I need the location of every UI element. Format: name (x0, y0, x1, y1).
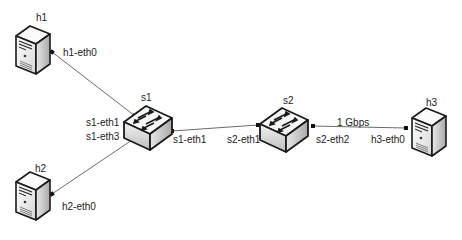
port-label-s2-eth2: s2-eth2 (316, 134, 349, 145)
port-label-s2-eth1: s2-eth1 (227, 134, 260, 145)
link-h2-s1[interactable] (52, 138, 135, 194)
node-label-h3: h3 (426, 97, 437, 108)
node-label-s1: s1 (141, 92, 152, 103)
host-h3-icon[interactable] (412, 108, 446, 156)
node-label-s2: s2 (283, 95, 294, 106)
port-label-s1-eth1-right: s1-eth1 (173, 134, 206, 145)
port-h3-eth0[interactable] (404, 126, 408, 130)
node-label-h2: h2 (35, 163, 46, 174)
link-s1-s2[interactable] (172, 125, 258, 131)
switch-s2-icon[interactable] (260, 108, 308, 152)
link-h1-s1[interactable] (52, 52, 135, 116)
host-h1-icon[interactable] (16, 26, 50, 74)
port-label-s1-eth3: s1-eth3 (86, 131, 119, 142)
port-label-h1-eth0: h1-eth0 (63, 47, 97, 58)
link-label-speed: 1 Gbps (337, 117, 369, 128)
node-label-h1: h1 (36, 12, 47, 23)
port-label-h3-eth0: h3-eth0 (371, 134, 405, 145)
port-s2-eth2[interactable] (311, 124, 315, 128)
port-label-s1-eth1-left: s1-eth1 (86, 117, 119, 128)
port-label-h2-eth0: h2-eth0 (62, 201, 96, 212)
host-h2-icon[interactable] (16, 172, 50, 220)
